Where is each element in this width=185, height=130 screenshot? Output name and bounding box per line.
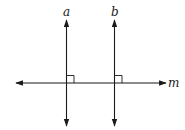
label-a: a	[63, 5, 70, 19]
right-angle-marker-a	[67, 76, 75, 84]
label-b: b	[111, 5, 119, 19]
right-angle-marker-b	[115, 76, 123, 84]
label-m: m	[168, 76, 179, 90]
perpendicular-lines-diagram: a b m	[0, 0, 185, 130]
diagram-svg: a b m	[0, 0, 185, 130]
